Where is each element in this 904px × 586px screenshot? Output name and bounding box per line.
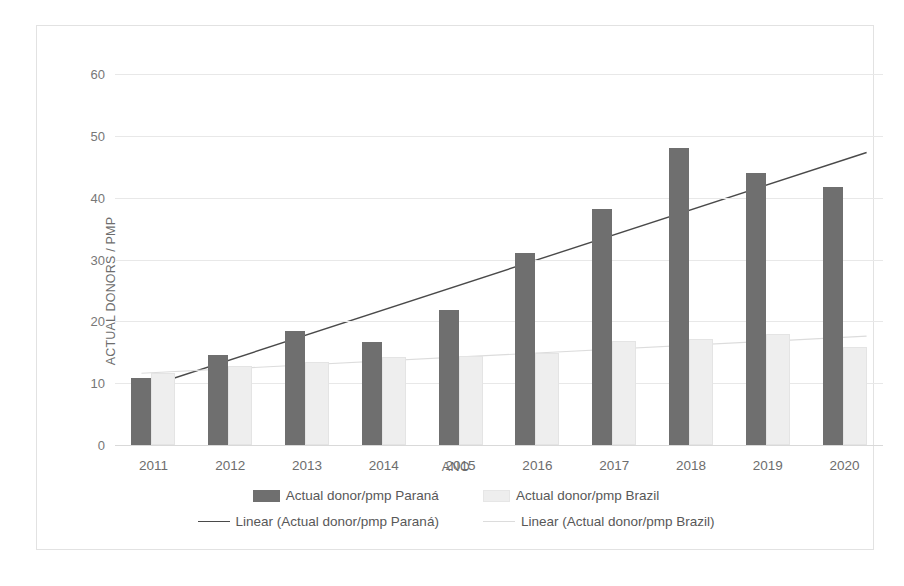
gridline-40 xyxy=(115,198,883,199)
bar-parana-2011[interactable] xyxy=(131,378,151,445)
y-tick-label-0: 0 xyxy=(45,438,105,453)
y-axis-title-holder: ACTUAL DONORS / PMP xyxy=(77,136,107,376)
legend-item-brazil-bar[interactable]: Actual donor/pmp Brazil xyxy=(483,488,659,503)
gridline-50 xyxy=(115,136,883,137)
bar-brazil-2013[interactable] xyxy=(305,362,329,445)
bar-swatch-dark-icon xyxy=(253,490,280,502)
gridline-0 xyxy=(115,445,883,446)
bar-parana-2017[interactable] xyxy=(592,209,612,445)
bar-parana-2020[interactable] xyxy=(823,187,843,445)
bar-parana-2018[interactable] xyxy=(669,148,689,445)
y-tick-label-10: 10 xyxy=(45,376,105,391)
bar-parana-2012[interactable] xyxy=(208,355,228,445)
bar-brazil-2015[interactable] xyxy=(459,356,483,445)
bar-parana-2016[interactable] xyxy=(515,253,535,445)
bar-brazil-2017[interactable] xyxy=(612,341,636,445)
legend-label-parana-bar: Actual donor/pmp Paraná xyxy=(286,488,439,503)
bar-parana-2014[interactable] xyxy=(362,342,382,445)
legend-label-brazil-bar: Actual donor/pmp Brazil xyxy=(516,488,659,503)
legend-row-bars: Actual donor/pmp Paraná Actual donor/pmp… xyxy=(37,488,875,503)
bar-parana-2019[interactable] xyxy=(746,173,766,445)
bar-brazil-2018[interactable] xyxy=(689,339,713,445)
line-swatch-light-icon xyxy=(483,521,515,522)
bar-brazil-2014[interactable] xyxy=(382,357,406,445)
chart-frame: 0102030405060 ACTUAL DONORS / PMP 201120… xyxy=(36,25,874,550)
y-tick-label-60: 60 xyxy=(45,67,105,82)
legend-item-parana-bar[interactable]: Actual donor/pmp Paraná xyxy=(253,488,439,503)
gridline-60 xyxy=(115,74,883,75)
gridline-30 xyxy=(115,260,883,261)
x-axis-title: ANO xyxy=(37,460,875,474)
bar-brazil-2019[interactable] xyxy=(766,334,790,445)
plot-area: 2011201220132014201520162017201820192020 xyxy=(115,74,883,445)
legend-label-parana-trend: Linear (Actual donor/pmp Paraná) xyxy=(236,514,439,529)
bar-parana-2015[interactable] xyxy=(439,310,459,445)
line-swatch-dark-icon xyxy=(198,521,230,522)
bar-brazil-2012[interactable] xyxy=(228,366,252,445)
bar-brazil-2016[interactable] xyxy=(535,353,559,445)
bar-swatch-light-icon xyxy=(483,490,510,502)
bar-brazil-2020[interactable] xyxy=(843,347,867,445)
bar-brazil-2011[interactable] xyxy=(151,373,175,445)
legend-item-brazil-trend[interactable]: Linear (Actual donor/pmp Brazil) xyxy=(483,514,715,529)
gridline-20 xyxy=(115,321,883,322)
bar-parana-2013[interactable] xyxy=(285,331,305,445)
legend-item-parana-trend[interactable]: Linear (Actual donor/pmp Paraná) xyxy=(198,514,439,529)
chart-legend: Actual donor/pmp Paraná Actual donor/pmp… xyxy=(37,488,875,540)
legend-row-trendlines: Linear (Actual donor/pmp Paraná) Linear … xyxy=(37,514,875,529)
legend-label-brazil-trend: Linear (Actual donor/pmp Brazil) xyxy=(521,514,715,529)
